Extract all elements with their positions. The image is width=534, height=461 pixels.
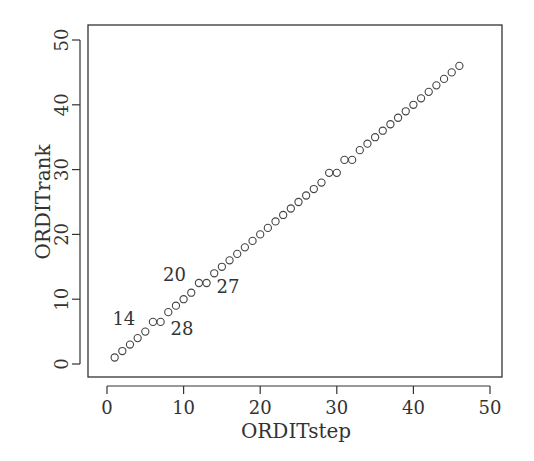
data-point	[165, 309, 172, 316]
x-tick-label: 0	[101, 397, 112, 418]
data-point	[440, 75, 447, 82]
y-tick-label: 0	[51, 358, 72, 369]
data-point	[425, 88, 432, 95]
data-point	[372, 134, 379, 141]
data-point	[310, 185, 317, 192]
data-point	[149, 318, 156, 325]
data-point	[303, 192, 310, 199]
data-point	[402, 108, 409, 115]
data-point	[119, 347, 126, 354]
point-label: 14	[112, 308, 135, 329]
data-point	[410, 101, 417, 108]
point-labels: 14282027	[112, 264, 239, 339]
y-axis: 01020304050	[51, 29, 80, 370]
data-point	[456, 62, 463, 69]
x-axis-label: ORDITstep	[241, 419, 351, 443]
data-point	[249, 237, 256, 244]
data-points	[111, 62, 463, 361]
point-label: 28	[171, 318, 194, 339]
y-axis-label: ORDITrank	[31, 144, 55, 260]
data-point	[134, 334, 141, 341]
data-point	[264, 224, 271, 231]
point-label: 27	[217, 276, 240, 297]
data-point	[157, 318, 164, 325]
data-point	[417, 95, 424, 102]
data-point	[142, 328, 149, 335]
y-tick-label: 40	[51, 93, 72, 116]
data-point	[234, 250, 241, 257]
data-point	[126, 341, 133, 348]
data-point	[387, 121, 394, 128]
data-point	[111, 354, 118, 361]
data-point	[241, 244, 248, 251]
data-point	[333, 169, 340, 176]
x-tick-label: 50	[479, 397, 502, 418]
data-point	[287, 205, 294, 212]
scatter-chart: 01020304050 01020304050 14282027 ORDITst…	[0, 0, 534, 461]
y-tick-label: 50	[51, 29, 72, 52]
data-point	[356, 147, 363, 154]
data-point	[172, 302, 179, 309]
data-point	[394, 114, 401, 121]
data-point	[203, 279, 210, 286]
data-point	[318, 179, 325, 186]
x-tick-label: 40	[402, 397, 425, 418]
x-axis: 01020304050	[101, 386, 501, 418]
data-point	[341, 156, 348, 163]
x-tick-label: 10	[172, 397, 195, 418]
data-point	[326, 169, 333, 176]
data-point	[226, 257, 233, 264]
data-point	[448, 69, 455, 76]
data-point	[180, 296, 187, 303]
data-point	[218, 263, 225, 270]
data-point	[257, 231, 264, 238]
x-tick-label: 20	[249, 397, 272, 418]
data-point	[295, 198, 302, 205]
data-point	[433, 82, 440, 89]
data-point	[280, 211, 287, 218]
point-label: 20	[163, 264, 186, 285]
data-point	[349, 156, 356, 163]
data-point	[272, 218, 279, 225]
data-point	[195, 279, 202, 286]
x-tick-label: 30	[325, 397, 348, 418]
y-tick-label: 10	[51, 288, 72, 311]
data-point	[379, 127, 386, 134]
data-point	[188, 289, 195, 296]
data-point	[364, 140, 371, 147]
